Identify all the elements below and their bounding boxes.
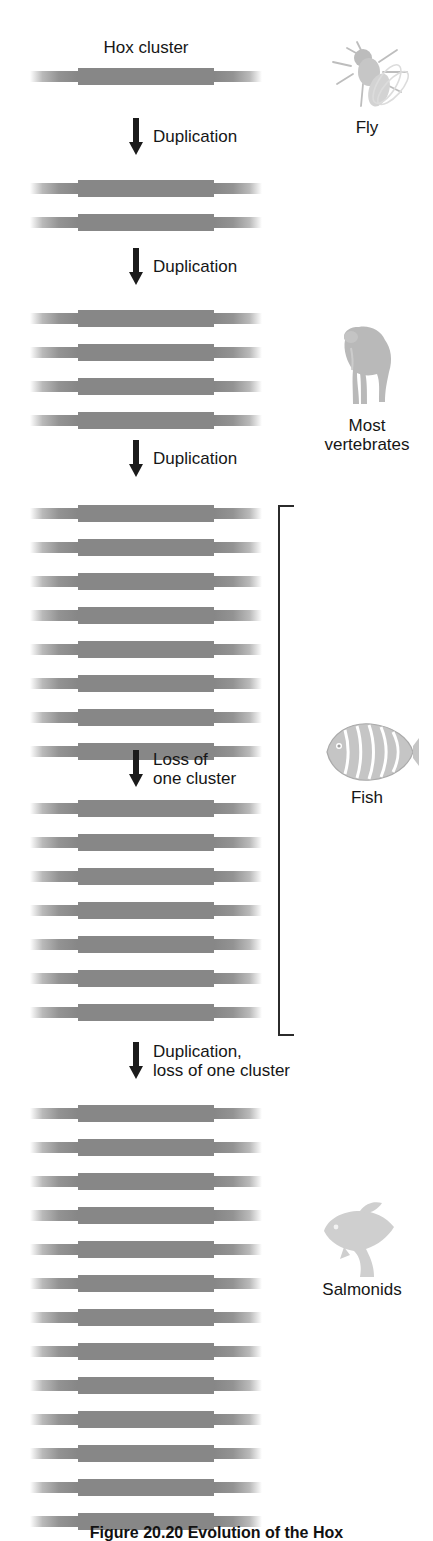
chromosome-arm-left <box>30 415 78 426</box>
transition-label: Duplication <box>153 449 237 468</box>
hox-cluster-core <box>78 214 214 231</box>
hox-cluster-bar <box>30 868 262 885</box>
chromosome-arm-right <box>214 1312 262 1323</box>
chromosome-arm-right <box>214 837 262 848</box>
hox-cluster-bar <box>30 1377 262 1394</box>
chromosome-arm-left <box>30 1448 78 1459</box>
monkey-icon <box>327 318 407 416</box>
hox-cluster-core <box>78 1105 214 1122</box>
figure-caption: Figure 20.20 Evolution of the Hox <box>0 1524 433 1541</box>
organism-label: Fly <box>305 118 429 137</box>
hox-cluster-bar <box>30 1309 262 1326</box>
transition-label: Duplication <box>153 127 237 146</box>
chromosome-arm-right <box>214 1210 262 1221</box>
hox-cluster-core <box>78 1207 214 1224</box>
transition-transition-5: Duplication, loss of one cluster <box>128 1042 290 1080</box>
hox-cluster-core <box>78 800 214 817</box>
arrow-down-icon <box>128 440 144 478</box>
hox-cluster-bar <box>30 344 262 361</box>
chromosome-arm-left <box>30 803 78 814</box>
hox-cluster-bar <box>30 573 262 590</box>
salmon-icon <box>316 1185 408 1280</box>
hox-cluster-bar <box>30 936 262 953</box>
chromosome-arm-left <box>30 837 78 848</box>
chromosome-arm-right <box>214 871 262 882</box>
chromosome-arm-right <box>214 712 262 723</box>
chromosome-arm-right <box>214 1380 262 1391</box>
chromosome-arm-right <box>214 610 262 621</box>
hox-cluster-bar <box>30 378 262 395</box>
chromosome-arm-right <box>214 1007 262 1018</box>
chromosome-arm-left <box>30 542 78 553</box>
chromosome-arm-left <box>30 1176 78 1187</box>
hox-cluster-bar <box>30 68 262 85</box>
chromosome-arm-left <box>30 746 78 757</box>
hox-cluster-core <box>78 1139 214 1156</box>
hox-cluster-bar <box>30 800 262 817</box>
chromosome-arm-left <box>30 1210 78 1221</box>
chromosome-arm-left <box>30 939 78 950</box>
chromosome-arm-left <box>30 508 78 519</box>
chromosome-arm-left <box>30 1278 78 1289</box>
organism-label: Fish <box>305 788 429 807</box>
hox-cluster-core <box>78 1445 214 1462</box>
chromosome-arm-right <box>214 1482 262 1493</box>
hox-cluster-core <box>78 675 214 692</box>
hox-cluster-core <box>78 1173 214 1190</box>
chromosome-arm-right <box>214 183 262 194</box>
organism-illustration <box>305 712 429 788</box>
chromosome-arm-right <box>214 1244 262 1255</box>
organism-illustration <box>300 1185 424 1280</box>
chromosome-arm-right <box>214 973 262 984</box>
chromosome-arm-left <box>30 1312 78 1323</box>
hox-cluster-bar <box>30 1479 262 1496</box>
chromosome-arm-left <box>30 347 78 358</box>
chromosome-arm-right <box>214 508 262 519</box>
hox-cluster-bar <box>30 310 262 327</box>
chromosome-arm-right <box>214 347 262 358</box>
hox-cluster-core <box>78 573 214 590</box>
organism-most-vertebrates: Most vertebrates <box>305 318 429 454</box>
chromosome-arm-right <box>214 1448 262 1459</box>
chromosome-arm-right <box>214 1108 262 1119</box>
chromosome-arm-left <box>30 644 78 655</box>
chromosome-arm-right <box>214 1176 262 1187</box>
fish-icon <box>315 712 419 788</box>
chromosome-arm-right <box>214 381 262 392</box>
organism-label: Salmonids <box>300 1280 424 1299</box>
chromosome-arm-left <box>30 217 78 228</box>
chromosome-arm-left <box>30 905 78 916</box>
hox-cluster-bar <box>30 1445 262 1462</box>
hox-cluster-title: Hox cluster <box>30 38 262 58</box>
arrow-down-icon <box>128 750 144 788</box>
transition-transition-3: Duplication <box>128 440 237 478</box>
hox-cluster-core <box>78 709 214 726</box>
chromosome-arm-right <box>214 939 262 950</box>
chromosome-arm-right <box>214 1346 262 1357</box>
chromosome-arm-left <box>30 1244 78 1255</box>
chromosome-arm-left <box>30 678 78 689</box>
hox-cluster-bar <box>30 1275 262 1292</box>
hox-cluster-core <box>78 310 214 327</box>
hox-cluster-bar <box>30 412 262 429</box>
chromosome-arm-left <box>30 1346 78 1357</box>
chromosome-arm-left <box>30 576 78 587</box>
chromosome-arm-right <box>214 71 262 82</box>
hox-cluster-bar <box>30 834 262 851</box>
hox-cluster-bar <box>30 1343 262 1360</box>
chromosome-arm-right <box>214 1278 262 1289</box>
organism-fly: Fly <box>305 32 429 137</box>
chromosome-arm-right <box>214 644 262 655</box>
hox-cluster-core <box>78 1411 214 1428</box>
transition-transition-2: Duplication <box>128 248 237 286</box>
chromosome-arm-right <box>214 576 262 587</box>
organism-illustration <box>305 318 429 416</box>
chromosome-arm-left <box>30 1007 78 1018</box>
organism-fish: Fish <box>305 712 429 807</box>
fly-icon <box>321 32 413 118</box>
chromosome-arm-left <box>30 1380 78 1391</box>
chromosome-arm-left <box>30 313 78 324</box>
arrow-down-icon <box>128 118 144 156</box>
chromosome-arm-right <box>214 1414 262 1425</box>
organism-illustration <box>305 32 429 118</box>
